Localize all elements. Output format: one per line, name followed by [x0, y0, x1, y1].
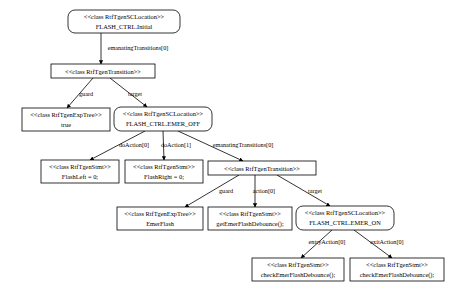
edge-label: emanatingTransitions[0] — [108, 44, 169, 51]
node-flashleft-0[interactable]: <<class RtfTgenStmt>>FlashLeft = 0; — [41, 160, 119, 183]
node-label: getEmerFlashDebounce(); — [216, 220, 284, 228]
node-stereotype: <<class RtfTgenTransition>> — [224, 165, 300, 172]
node-class-rtftgentransition[interactable]: <<class RtfTgenTransition>> — [208, 161, 316, 175]
edge-label: action[0] — [253, 187, 275, 194]
node-label: FLASH_CTRL.EMER_OFF — [126, 120, 200, 127]
node-flash_ctrl-emer_on[interactable]: <<class RtfTgenSCLocation>>FLASH_CTRL.EM… — [296, 206, 394, 230]
edge-target — [277, 175, 330, 206]
node-flash_ctrl-emer_off[interactable]: <<class RtfTgenSCLocation>>FLASH_CTRL.EM… — [114, 107, 212, 131]
node-emerflash[interactable]: <<class RtfTgenExpTree>>EmerFlash — [117, 207, 203, 230]
edge-label: doAction[0] — [119, 141, 149, 148]
edge-label: guard — [219, 187, 234, 194]
node-label: FlashRight = 0; — [144, 173, 184, 180]
node-label: checkEmerFlashDebounce(); — [261, 271, 336, 279]
node-stereotype: <<class RtfTgenStmt>> — [219, 210, 281, 217]
node-label: EmerFlash — [146, 220, 174, 227]
edge-label: exitAction[0] — [370, 238, 403, 245]
node-flashright-0[interactable]: <<class RtfTgenStmt>>FlashRight = 0; — [125, 160, 203, 183]
node-stereotype: <<class RtfTgenExpTree>> — [30, 111, 102, 118]
node-stereotype: <<class RtfTgenTransition>> — [65, 68, 141, 75]
node-stereotype: <<class RtfTgenSCLocation>> — [84, 13, 165, 20]
node-getemerflashdebounce[interactable]: <<class RtfTgenStmt>>getEmerFlashDebounc… — [208, 207, 292, 230]
edge-line — [277, 175, 330, 206]
node-flash_ctrl-initial[interactable]: <<class RtfTgenSCLocation>>FLASH_CTRL.In… — [68, 10, 180, 33]
node-stereotype: <<class RtfTgenStmt>> — [366, 261, 428, 268]
object-diagram: <<class RtfTgenSCLocation>>FLASH_CTRL.In… — [0, 0, 450, 293]
diagram-canvas: <<class RtfTgenSCLocation>>FLASH_CTRL.In… — [0, 0, 450, 293]
node-stereotype: <<class RtfTgenSCLocation>> — [305, 209, 386, 216]
node-label: checkEmerFlashDebounce(); — [360, 271, 435, 279]
edge-label: target — [308, 187, 322, 194]
node-true[interactable]: <<class RtfTgenExpTree>>true — [22, 108, 110, 131]
node-checkemerflashdebounce[interactable]: <<class RtfTgenStmt>>checkEmerFlashDebou… — [350, 258, 444, 281]
node-class-rtftgentransition[interactable]: <<class RtfTgenTransition>> — [51, 64, 155, 78]
edge-label: emanatingTransitions[0] — [213, 141, 274, 148]
node-label: FLASH_CTRL.Initial — [96, 23, 153, 30]
node-label: true — [61, 121, 71, 128]
edge-label: guard — [79, 90, 94, 97]
node-label: FlashLeft = 0; — [62, 173, 98, 180]
node-stereotype: <<class RtfTgenStmt>> — [133, 163, 195, 170]
edge-label: target — [128, 90, 142, 97]
edge-label: entryAction[0] — [309, 238, 346, 245]
node-stereotype: <<class RtfTgenStmt>> — [267, 261, 329, 268]
node-stereotype: <<class RtfTgenStmt>> — [49, 163, 111, 170]
node-stereotype: <<class RtfTgenSCLocation>> — [123, 110, 204, 117]
node-stereotype: <<class RtfTgenExpTree>> — [124, 210, 196, 217]
node-checkemerflashdebounce[interactable]: <<class RtfTgenStmt>>checkEmerFlashDebou… — [252, 258, 344, 281]
edge-label: doAction[1] — [161, 141, 191, 148]
node-label: FLASH_CTRL.EMER_ON — [309, 219, 381, 226]
